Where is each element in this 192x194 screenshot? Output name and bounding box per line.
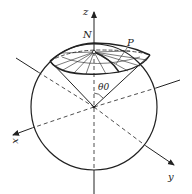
center-point [93,106,96,109]
y-axis-arrow [146,146,174,165]
y-axis-dashed [94,107,146,146]
z-axis-label: z [83,7,88,17]
north-pole-label: N [83,30,92,40]
north-pole-point [92,50,95,53]
sphere-cone-diagram: z N P θ0 x y [0,0,192,194]
theta0-label: θ0 [98,83,109,92]
y-axis-label: y [168,172,174,182]
x-axis-label: x [11,138,21,144]
point-p-label: P [127,38,134,48]
x-axis-dashed-lower [32,107,94,128]
theta-arc [94,93,103,98]
aux-axis-solid [156,80,180,88]
diagram-svg [0,0,192,194]
cone-right [94,55,150,107]
x-axis-upper-line [16,58,38,72]
x-axis-arrow [13,128,32,135]
